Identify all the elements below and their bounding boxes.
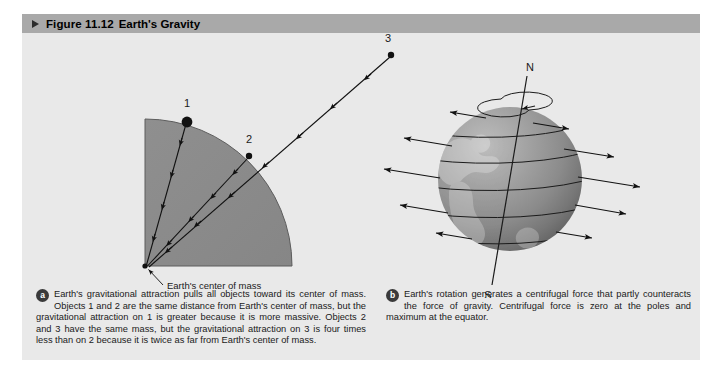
figure-panel: Figure 11.12 Earth's Gravity <box>22 14 700 360</box>
center-of-mass-leader-line <box>149 270 164 286</box>
center-of-mass-dot <box>142 263 147 268</box>
caption-a-badge: a <box>36 289 49 302</box>
centrifugal-arrow-right-0 <box>575 205 626 214</box>
panel-a-diagram: 1 2 3 Earth's center of mass <box>142 33 394 291</box>
triangle-right-icon <box>32 20 39 28</box>
figure-header: Figure 11.12 Earth's Gravity <box>22 14 700 33</box>
caption-b-text: Earth's rotation generates a centrifugal… <box>386 289 691 324</box>
north-pole-label: N <box>526 61 534 73</box>
figure-number: Figure 11.12 <box>46 18 114 30</box>
object-3-dot <box>388 52 394 58</box>
caption-a: a Earth's gravitational attraction pulls… <box>36 289 366 347</box>
figure-artwork: 1 2 3 Earth's center of mass <box>22 33 700 298</box>
object-2-dot <box>246 153 252 159</box>
figure-title: Earth's Gravity <box>119 18 200 30</box>
centrifugal-arrow-right-25 <box>578 177 640 187</box>
centrifugal-arrow-left-50 <box>404 138 452 146</box>
caption-a-text: Earth's gravitational attraction pulls a… <box>36 289 366 347</box>
object-1-label: 1 <box>184 97 190 109</box>
object-3-label: 3 <box>385 33 391 44</box>
centrifugal-arrow-right-n25 <box>556 232 592 238</box>
centrifugal-arrow-left-n25 <box>400 205 448 213</box>
caption-b-badge: b <box>386 289 399 302</box>
centrifugal-arrow-left-0 <box>384 169 440 178</box>
object-1-dot <box>182 117 193 128</box>
caption-b: b Earth's rotation generates a centrifug… <box>386 289 691 324</box>
panel-b-diagram: N S <box>384 61 640 298</box>
object-2-label: 2 <box>246 133 252 145</box>
